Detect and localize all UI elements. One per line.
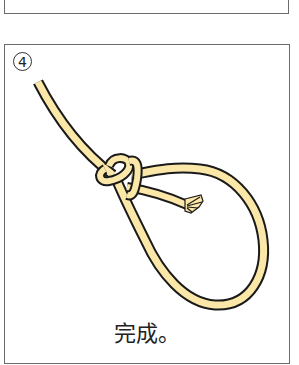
frayed-rope-end	[185, 195, 203, 213]
step-panel: 4 完成。	[4, 44, 290, 364]
step-caption: 完成。	[5, 315, 289, 347]
previous-step-panel: 端を輪に通す	[4, 0, 289, 14]
step-number-badge: 4	[13, 52, 32, 71]
